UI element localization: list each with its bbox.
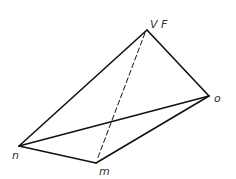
label-m: m [99,165,110,178]
edge-m-o [96,96,209,163]
label-n: n [12,149,19,162]
label-vf: V F [150,18,168,31]
edge-vf-m-hidden [97,33,145,160]
tetrahedron-diagram: V F o n m [0,0,236,179]
edge-n-m [19,146,96,163]
edge-vf-o [147,30,209,96]
label-o: o [214,92,221,105]
